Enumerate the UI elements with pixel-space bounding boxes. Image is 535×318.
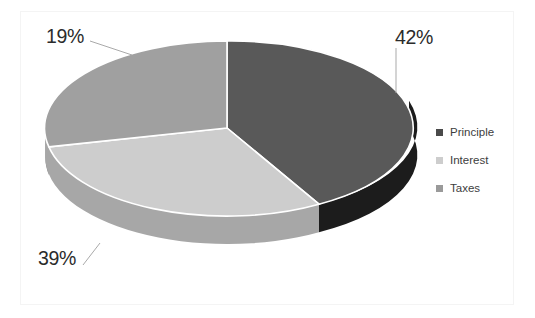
legend-swatch-interest bbox=[436, 157, 443, 164]
legend-label-interest: Interest bbox=[450, 154, 488, 166]
legend-item-taxes[interactable]: Taxes bbox=[436, 174, 532, 202]
data-label-interest: 39% bbox=[38, 247, 76, 270]
slice-top-taxes bbox=[45, 41, 227, 147]
legend-item-principle[interactable]: Principle bbox=[436, 118, 532, 146]
legend-label-principle: Principle bbox=[450, 126, 494, 138]
leader-line-interest bbox=[83, 243, 100, 265]
legend-label-taxes: Taxes bbox=[450, 182, 480, 194]
legend-item-interest[interactable]: Interest bbox=[436, 146, 532, 174]
legend-swatch-taxes bbox=[436, 185, 443, 192]
legend: Principle Interest Taxes bbox=[436, 118, 532, 202]
leader-line-taxes bbox=[90, 41, 132, 55]
pie-chart: 42% 19% 39% Principle Interest Taxes bbox=[0, 0, 535, 318]
data-label-principle: 42% bbox=[395, 26, 433, 49]
data-label-taxes: 19% bbox=[46, 25, 84, 48]
legend-swatch-principle bbox=[436, 129, 443, 136]
